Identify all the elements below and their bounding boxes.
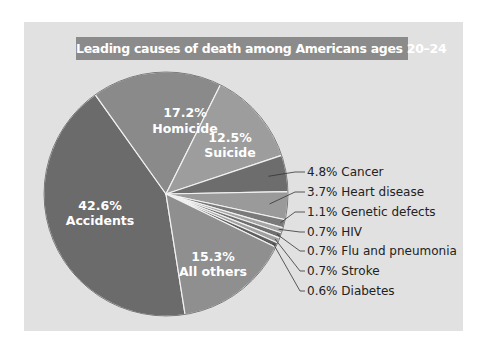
callout-line [277,234,305,251]
callout-heart-disease: 3.7% Heart disease [307,185,424,199]
label-accidents-pct: 42.6% [78,198,122,213]
callout-cancer: 4.8% Cancer [307,165,384,179]
callout-hiv: 0.7% HIV [307,225,363,239]
callout-flu-pneumonia: 0.7% Flu and pneumonia [307,244,457,258]
callout-line [273,243,305,291]
callout-diabetes: 0.6% Diabetes [307,284,395,298]
label-all-others-name: All others [179,264,247,279]
label-homicide-pct: 17.2% [163,105,207,120]
callout-stroke: 0.7% Stroke [307,264,380,278]
callout-genetic-defects: 1.1% Genetic defects [307,205,436,219]
pie-chart: 42.6% Accidents 17.2% Homicide 12.5% Sui… [0,0,485,341]
label-accidents-name: Accidents [66,213,135,228]
label-all-others-pct: 15.3% [191,249,235,264]
label-suicide-pct: 12.5% [208,130,252,145]
label-suicide-name: Suicide [204,145,255,160]
